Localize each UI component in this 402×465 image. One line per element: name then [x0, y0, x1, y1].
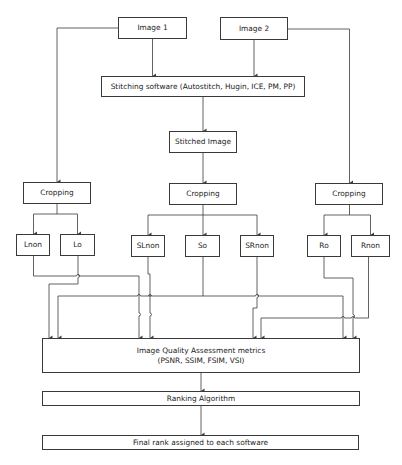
edge-rnon-iqa — [261, 257, 369, 338]
cropping-middle-label: Cropping — [186, 189, 219, 198]
iqa-metrics-title: Image Quality Assessment metrics — [137, 346, 266, 355]
stitching-software-label: Stitching software (Autostitch, Hugin, I… — [111, 82, 296, 91]
cropping-right-node: Cropping — [315, 183, 383, 205]
ranking-algorithm-label: Ranking Algorithm — [167, 394, 235, 403]
edge-crop-left-branch — [34, 204, 58, 234]
image2-node: Image 2 — [220, 17, 288, 40]
edge-slnon-iqa — [148, 257, 152, 338]
cropping-left-node: Cropping — [23, 182, 91, 204]
edge-image2-crop-right — [288, 29, 350, 183]
so-label: So — [198, 241, 207, 250]
edge-image1-crop-left — [57, 28, 118, 182]
stitching-software-node: Stitching software (Autostitch, Hugin, I… — [101, 76, 305, 97]
rnon-label: Rnon — [361, 241, 380, 250]
iqa-metrics-list: (PSNR, SSIM, FSIM, VSI) — [158, 356, 245, 365]
edge-lnon-iqa — [34, 256, 141, 338]
slnon-label: SLnon — [137, 241, 160, 250]
stitched-image-label: Stitched Image — [175, 137, 231, 146]
final-rank-node: Final rank assigned to each software — [42, 435, 359, 450]
srnon-label: SRnon — [245, 241, 269, 250]
ro-label: Ro — [319, 241, 328, 250]
image2-label: Image 2 — [239, 24, 269, 33]
ro-node: Ro — [307, 235, 341, 257]
lo-node: Lo — [60, 234, 95, 256]
edge-so-iqa — [58, 257, 203, 338]
srnon-node: SRnon — [240, 235, 274, 257]
image1-label: Image 1 — [137, 23, 167, 32]
edge-srnon-iqa — [253, 257, 259, 338]
stitched-image-node: Stitched Image — [169, 131, 237, 153]
edge-ro-iqa — [324, 257, 355, 338]
iqa-metrics-node: Image Quality Assessment metrics (PSNR, … — [42, 338, 360, 373]
lo-label: Lo — [73, 240, 82, 249]
slnon-node: SLnon — [131, 235, 165, 257]
cropping-left-label: Cropping — [40, 188, 73, 197]
cropping-middle-node: Cropping — [169, 183, 237, 205]
edge-lo-iqa — [49, 256, 80, 338]
rnon-node: Rnon — [351, 235, 390, 257]
edge-crop-right-branch — [324, 205, 350, 235]
cropping-right-label: Cropping — [332, 189, 365, 198]
so-node: So — [185, 235, 220, 257]
final-rank-label: Final rank assigned to each software — [133, 438, 268, 447]
lnon-node: Lnon — [16, 234, 50, 256]
ranking-algorithm-node: Ranking Algorithm — [42, 391, 360, 406]
image1-node: Image 1 — [118, 17, 187, 39]
edge-crop-mid-branch — [148, 205, 203, 235]
lnon-label: Lnon — [24, 240, 42, 249]
